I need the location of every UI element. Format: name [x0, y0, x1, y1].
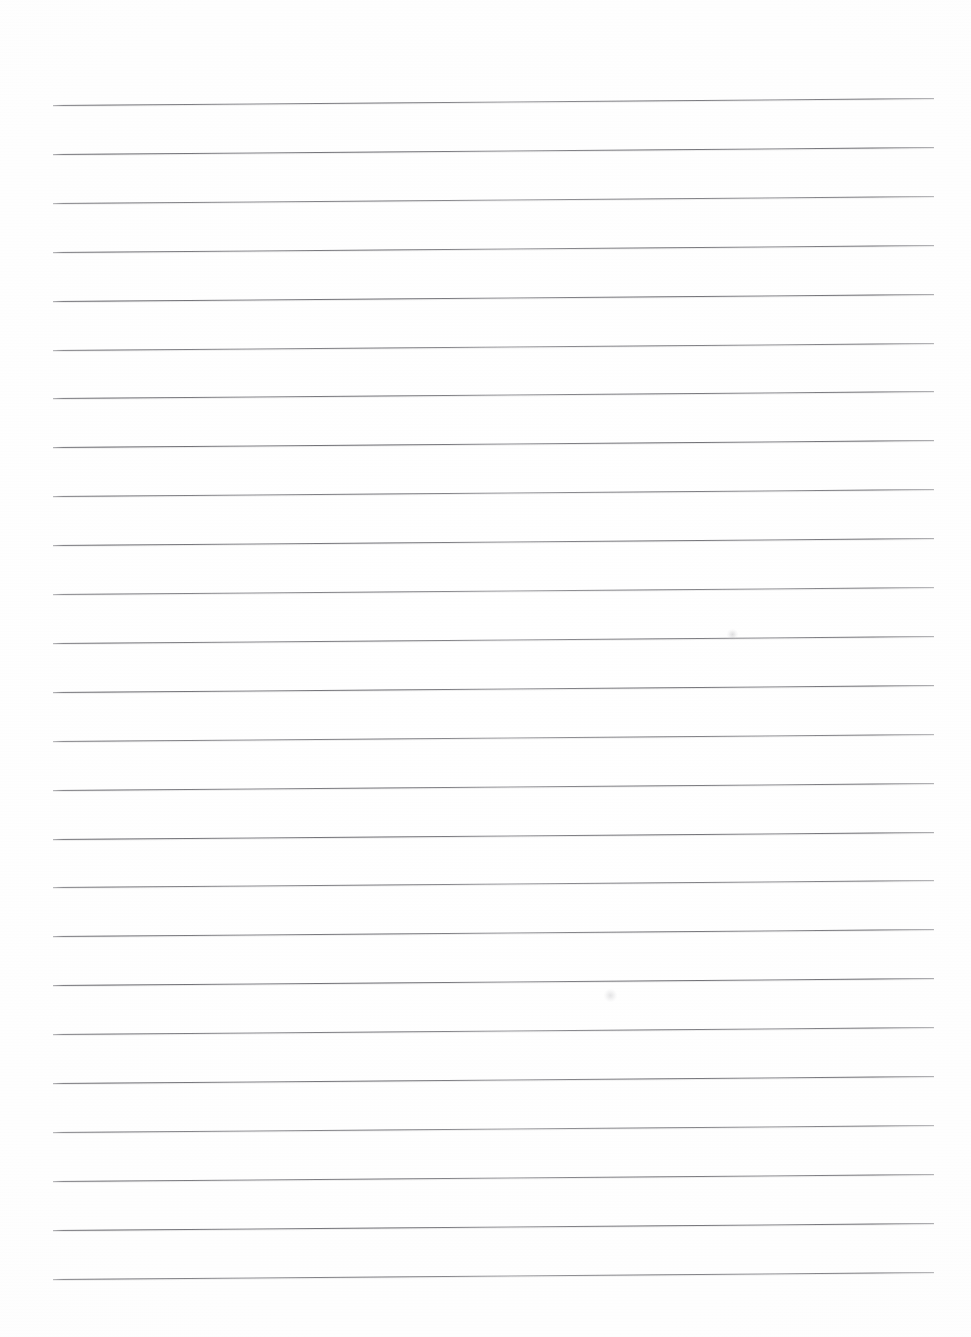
ruled-line	[53, 1272, 934, 1280]
ruled-line	[53, 1125, 934, 1133]
ruled-line	[53, 929, 934, 937]
ruled-line	[53, 734, 934, 742]
ruled-line	[53, 147, 934, 155]
ruled-line	[53, 1076, 934, 1084]
ruled-lines-layer	[0, 0, 971, 1337]
ruled-line	[53, 440, 934, 448]
ruled-line	[53, 343, 934, 351]
ruled-line	[53, 880, 934, 888]
ruled-line	[53, 294, 934, 302]
ruled-line	[53, 196, 934, 204]
ruled-line	[53, 1223, 934, 1231]
ruled-line	[53, 489, 934, 497]
ruled-line	[53, 1027, 934, 1035]
ruled-line	[53, 636, 934, 644]
ruled-line	[53, 538, 934, 546]
scanned-page	[0, 0, 971, 1337]
ruled-line	[53, 1174, 934, 1182]
ruled-line	[53, 245, 934, 253]
ruled-line	[53, 978, 934, 986]
ruled-line	[53, 587, 934, 595]
ruled-line	[53, 98, 934, 106]
ruled-line	[53, 685, 934, 693]
ruled-line	[53, 832, 934, 840]
ruled-line	[53, 391, 934, 399]
ruled-line	[53, 783, 934, 791]
